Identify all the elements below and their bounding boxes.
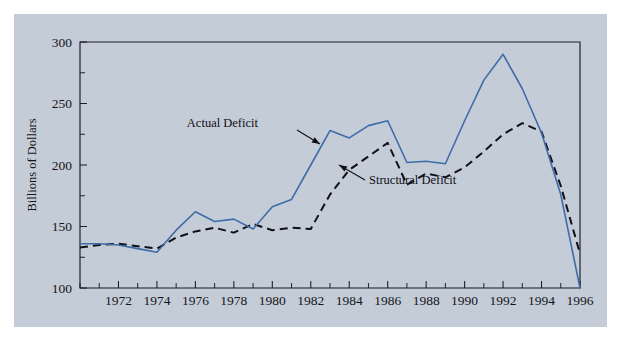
x-axis-tick-labels: 1972197419761978198019821984198619881990…: [105, 293, 594, 308]
x-tick-label-1992: 1992: [490, 293, 517, 308]
y-tick-label-150: 150: [52, 219, 73, 234]
x-tick-label-1984: 1984: [336, 293, 363, 308]
y-axis-title: Billions of Dollars: [25, 118, 39, 211]
x-tick-label-1988: 1988: [413, 293, 440, 308]
x-tick-label-1994: 1994: [528, 293, 555, 308]
deficit-line-chart: 100150200250300 197219741976197819801982…: [0, 0, 621, 344]
x-tick-label-1986: 1986: [374, 293, 401, 308]
y-tick-label-200: 200: [52, 158, 73, 173]
x-tick-label-1990: 1990: [451, 293, 478, 308]
x-tick-label-1972: 1972: [105, 293, 132, 308]
chart-annotations: Actual DeficitStructural Deficit: [187, 116, 457, 187]
annotation-label-actual-deficit: Actual Deficit: [187, 116, 259, 130]
annotation-arrowhead: [312, 137, 320, 144]
annotation-label-structural-deficit: Structural Deficit: [369, 173, 457, 187]
y-tick-label-250: 250: [52, 96, 73, 111]
y-tick-label-300: 300: [52, 35, 73, 50]
x-tick-label-1974: 1974: [143, 293, 170, 308]
x-axis-ticks: [80, 281, 580, 288]
y-axis-major-ticks: [80, 42, 87, 288]
y-tick-label-100: 100: [52, 281, 73, 296]
x-tick-label-1982: 1982: [297, 293, 324, 308]
plot-frame: [80, 42, 580, 288]
y-axis-tick-labels: 100150200250300: [52, 35, 73, 296]
annotation-arrowhead: [339, 165, 347, 172]
x-tick-label-1980: 1980: [259, 293, 286, 308]
x-tick-label-1976: 1976: [182, 293, 209, 308]
axis-frame: [80, 42, 580, 288]
x-tick-label-1996: 1996: [567, 293, 594, 308]
series-line-actual-deficit: [80, 54, 580, 288]
x-tick-label-1978: 1978: [220, 293, 247, 308]
figure-root: 100150200250300 197219741976197819801982…: [0, 0, 621, 344]
series-line-structural-deficit: [80, 123, 580, 253]
